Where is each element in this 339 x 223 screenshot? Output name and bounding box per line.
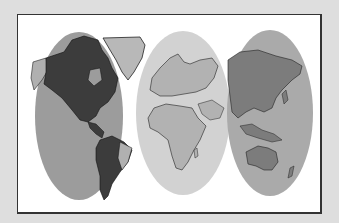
madagascar [194,148,198,158]
world-map-zones [0,0,339,223]
